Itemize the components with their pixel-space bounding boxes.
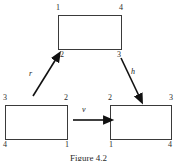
figure-caption: Figure 4.2 — [0, 153, 177, 161]
arrow-v — [0, 0, 177, 161]
figure-container: 1 4 2 3 3 2 4 1 2 3 1 4 r h v Fig — [0, 0, 177, 161]
arrow-v-label: v — [82, 106, 86, 114]
